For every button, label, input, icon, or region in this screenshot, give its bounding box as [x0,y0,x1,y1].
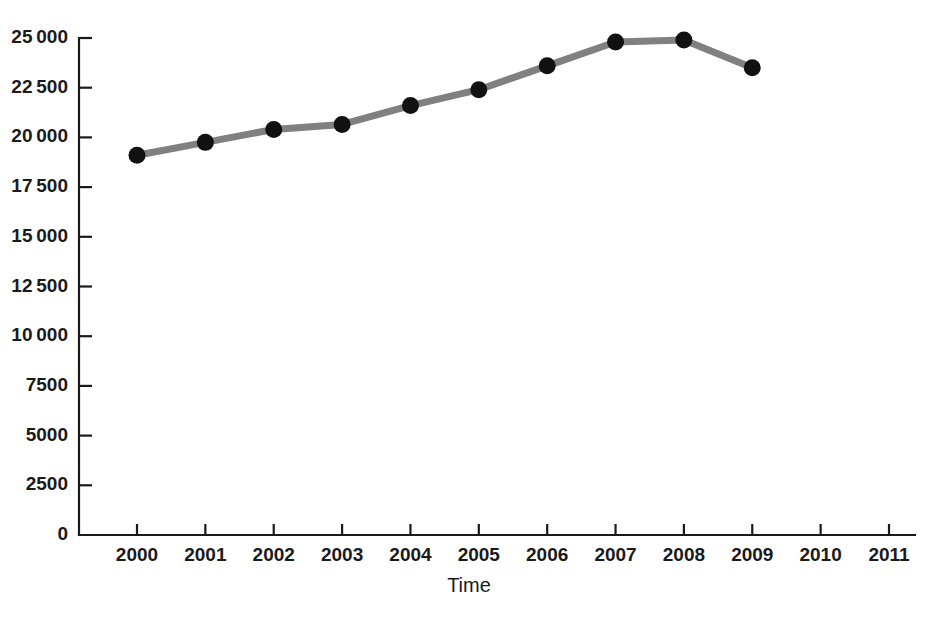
x-axis-tick-label: 2010 [799,544,841,565]
data-point-marker [675,31,692,48]
y-axis-tick-label: 10 000 [11,324,68,345]
x-axis-tick-label: 2000 [116,544,158,565]
chart-figure: 025005000750010 00012 50015 00017 50020 … [0,0,938,618]
y-axis-tick-label: 25 000 [11,26,68,47]
y-axis-tick-label: 2500 [26,473,68,494]
y-axis-tick-label: 20 000 [11,125,68,146]
y-axis-tick-label: 0 [57,523,68,544]
data-point-marker [197,134,214,151]
data-point-marker [265,121,282,138]
x-axis-tick-label: 2001 [184,544,227,565]
data-point-marker [129,147,146,164]
data-point-marker [402,97,419,114]
y-axis-tick-label: 12 500 [11,275,68,296]
line-chart-canvas: 025005000750010 00012 50015 00017 50020 … [0,0,938,618]
y-axis-tick-label: 5000 [26,424,68,445]
y-axis-tick-label: 15 000 [11,225,68,246]
data-point-marker [744,59,761,76]
data-point-marker [539,57,556,74]
x-axis-tick-label: 2009 [731,544,773,565]
data-point-marker [607,33,624,50]
x-axis-tick-label: 2007 [594,544,636,565]
data-point-marker [470,81,487,98]
y-axis-tick-label: 17 500 [11,175,68,196]
y-axis-tick-label: 7500 [26,374,68,395]
x-axis-tick-label: 2005 [458,544,501,565]
x-axis-title: Time [447,574,491,596]
x-axis-tick-label: 2002 [253,544,295,565]
y-axis-tick-label: 22 500 [11,76,68,97]
x-axis-tick-label: 2006 [526,544,568,565]
x-axis-tick-label: 2008 [663,544,705,565]
x-axis-tick-label: 2011 [868,544,910,565]
x-axis-tick-label: 2003 [321,544,363,565]
data-point-marker [334,116,351,133]
x-axis-tick-label: 2004 [389,544,432,565]
